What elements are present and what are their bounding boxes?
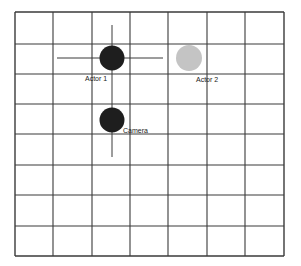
actor-2-marker xyxy=(176,45,202,71)
camera-label: Camera xyxy=(123,127,148,134)
actor1-crosshair xyxy=(57,25,163,157)
actor-1-label: Actor 1 xyxy=(85,75,107,82)
actor-2-label: Actor 2 xyxy=(196,76,218,83)
actor-1-marker xyxy=(100,46,125,71)
blocking-diagram: Actor 1 Actor 2 Camera xyxy=(0,0,301,266)
grid xyxy=(15,12,284,256)
camera-node: Camera xyxy=(100,108,149,135)
actor-1-node: Actor 1 xyxy=(85,46,125,83)
actor-2-node: Actor 2 xyxy=(176,45,218,83)
camera-marker xyxy=(100,108,125,133)
diagram-canvas: Actor 1 Actor 2 Camera xyxy=(0,0,301,266)
